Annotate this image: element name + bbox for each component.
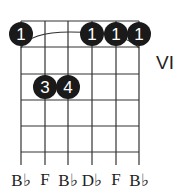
finger-number: 1	[16, 25, 25, 44]
string-label-1: B♭	[11, 170, 30, 191]
finger-number: 1	[87, 25, 96, 44]
position-label: VI	[156, 52, 174, 74]
finger-number: 1	[111, 25, 120, 44]
chord-diagram: 111134	[0, 0, 183, 196]
string-label-3: B♭	[58, 170, 77, 191]
string-label-5: F	[111, 170, 120, 190]
finger-number: 4	[63, 78, 72, 97]
finger-dots: 111134	[9, 22, 151, 99]
string-label-6: B♭	[129, 170, 148, 191]
finger-number: 1	[134, 25, 143, 44]
string-label-2: F	[40, 170, 49, 190]
string-label-4: D♭	[82, 170, 102, 191]
finger-number: 3	[40, 78, 49, 97]
